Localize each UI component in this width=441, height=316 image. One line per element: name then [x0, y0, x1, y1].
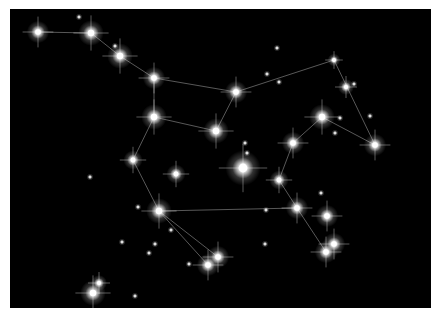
bright-star: [120, 147, 146, 173]
faint-star: [186, 261, 193, 268]
faint-star: [332, 130, 339, 137]
faint-star: [262, 241, 269, 248]
bright-star: [335, 76, 357, 98]
bright-star: [304, 99, 339, 134]
constellation-line: [236, 60, 334, 92]
faint-star: [146, 250, 153, 257]
stars: [23, 14, 391, 311]
faint-star: [76, 14, 83, 21]
bright-star: [102, 38, 137, 73]
faint-star: [87, 174, 94, 181]
faint-star: [318, 190, 325, 197]
bright-star: [282, 193, 313, 224]
constellation-line: [334, 60, 375, 145]
bright-star: [360, 130, 391, 161]
bright-star: [136, 99, 171, 134]
faint-star: [152, 241, 159, 248]
bright-star: [312, 201, 343, 232]
faint-star: [119, 239, 126, 246]
constellation-lines: [38, 32, 375, 265]
bright-star: [219, 144, 267, 192]
constellation-chart: [0, 0, 441, 316]
bright-star: [325, 51, 343, 69]
faint-star: [132, 293, 139, 300]
constellation-line: [159, 208, 297, 211]
bright-star: [198, 113, 233, 148]
bright-star: [163, 161, 189, 187]
bright-star: [221, 77, 252, 108]
faint-star: [263, 207, 270, 214]
faint-star: [264, 71, 271, 78]
faint-star: [168, 227, 175, 234]
constellation-line: [154, 78, 236, 92]
bright-star: [73, 15, 108, 50]
bright-star: [139, 63, 170, 94]
faint-star: [367, 113, 374, 120]
faint-star: [337, 115, 344, 122]
faint-star: [274, 45, 281, 52]
bright-star: [278, 128, 309, 159]
faint-star: [276, 79, 283, 86]
bright-star: [266, 167, 292, 193]
bright-star: [141, 193, 176, 228]
faint-star: [135, 204, 142, 211]
bright-star: [23, 17, 54, 48]
